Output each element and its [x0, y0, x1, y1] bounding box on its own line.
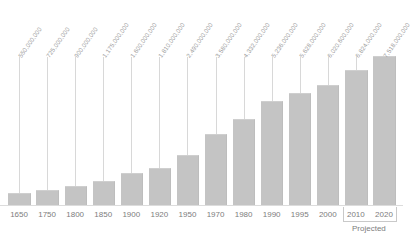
x-axis-line — [0, 205, 403, 206]
x-tick-label-1970: 1970 — [202, 209, 230, 221]
leader-line — [187, 57, 188, 156]
leader-line — [19, 57, 20, 194]
leader-line — [131, 57, 132, 174]
x-tick-label-1750: 1750 — [33, 209, 61, 221]
leader-line — [216, 57, 217, 135]
x-tick-label-1980: 1980 — [230, 209, 258, 221]
x-tick-label-1900: 1900 — [117, 209, 145, 221]
bar-1970[interactable] — [205, 134, 227, 205]
x-tick-label-2000: 2000 — [314, 209, 342, 221]
projected-annotation-label: Projected — [352, 224, 386, 233]
bar-1980[interactable] — [233, 119, 255, 205]
leader-line — [244, 57, 245, 120]
x-tick-label-1650: 1650 — [5, 209, 33, 221]
bar-2010[interactable] — [345, 70, 367, 205]
leader-line — [47, 57, 48, 191]
bar-1900[interactable] — [121, 173, 143, 205]
leader-line — [300, 57, 301, 94]
bar-1920[interactable] — [149, 168, 171, 205]
bar-1995[interactable] — [289, 93, 311, 205]
bar-1990[interactable] — [261, 101, 283, 205]
leader-line — [272, 57, 273, 102]
leader-line — [75, 57, 76, 187]
x-tick-label-1920: 1920 — [145, 209, 173, 221]
bar-1850[interactable] — [93, 181, 115, 205]
x-tick-label-1995: 1995 — [286, 209, 314, 221]
leader-line — [159, 57, 160, 169]
bar-2020[interactable] — [373, 56, 395, 205]
bar-1800[interactable] — [65, 186, 87, 205]
bar-1950[interactable] — [177, 155, 199, 205]
bar-1750[interactable] — [36, 190, 58, 205]
leader-line — [103, 57, 104, 182]
x-tick-label-1990: 1990 — [258, 209, 286, 221]
bar-2000[interactable] — [317, 85, 339, 205]
x-tick-label-1800: 1800 — [61, 209, 89, 221]
leader-line — [328, 57, 329, 86]
bar-1650[interactable] — [8, 193, 30, 205]
x-tick-label-1850: 1850 — [89, 209, 117, 221]
x-tick-label-1950: 1950 — [173, 209, 201, 221]
projected-bracket — [343, 207, 397, 222]
leader-line — [356, 57, 357, 71]
